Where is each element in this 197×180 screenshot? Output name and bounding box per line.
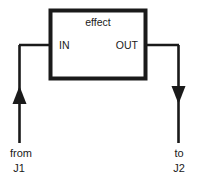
effect-signal-flow-diagram: effect IN OUT from J1 to J2 [0,0,197,180]
output-port-label: OUT [116,39,139,51]
input-terminal-label-line2: J1 [13,162,25,174]
output-terminal-label-line2: J2 [173,162,185,174]
input-port-label: IN [59,39,70,51]
arrowhead-down-icon [172,86,186,104]
input-wire [13,45,53,143]
output-wire [144,45,186,143]
input-terminal-label-line1: from [10,147,32,159]
effect-block-label: effect [85,16,111,28]
output-terminal-label-line1: to [174,147,183,159]
signal-flow-svg: effect IN OUT from J1 to J2 [0,0,197,180]
arrowhead-up-icon [13,86,27,104]
